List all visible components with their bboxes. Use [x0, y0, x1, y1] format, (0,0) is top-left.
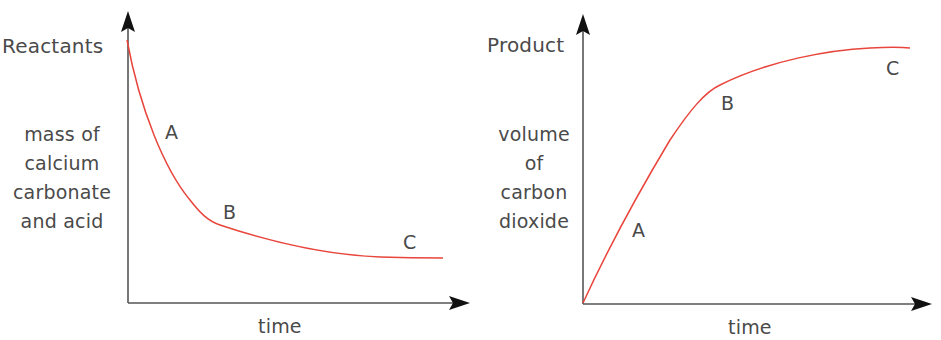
right-y-label-line: dioxide — [478, 207, 590, 236]
right-y-axis-label: volume of carbon dioxide — [478, 120, 590, 236]
right-x-axis-label: time — [728, 313, 772, 340]
left-x-axis-label: time — [258, 312, 302, 340]
left-y-label-line: mass of — [0, 120, 124, 149]
right-y-label-line: volume — [478, 120, 590, 149]
left-y-label-line: and acid — [0, 207, 124, 236]
left-y-axis-label: mass of calcium carbonate and acid — [0, 120, 124, 236]
right-point-a-label: A — [632, 216, 645, 245]
left-graph — [121, 11, 470, 310]
left-reactant-curve — [127, 40, 443, 258]
left-y-label-line: carbonate — [0, 178, 124, 207]
right-point-c-label: C — [886, 54, 899, 83]
left-point-a-label: A — [165, 118, 178, 147]
right-y-label-line: of — [478, 149, 590, 178]
right-top-label: Product — [487, 31, 564, 60]
left-point-c-label: C — [403, 228, 416, 257]
left-point-b-label: B — [223, 198, 236, 227]
left-top-label: Reactants — [2, 32, 103, 61]
graphs-canvas — [0, 0, 941, 340]
right-graph — [576, 14, 932, 311]
left-y-label-line: calcium — [0, 149, 124, 178]
right-product-curve — [583, 47, 910, 303]
right-y-label-line: carbon — [478, 178, 590, 207]
right-point-b-label: B — [721, 89, 734, 118]
reaction-rate-diagrams: Reactants mass of calcium carbonate and … — [0, 0, 941, 340]
